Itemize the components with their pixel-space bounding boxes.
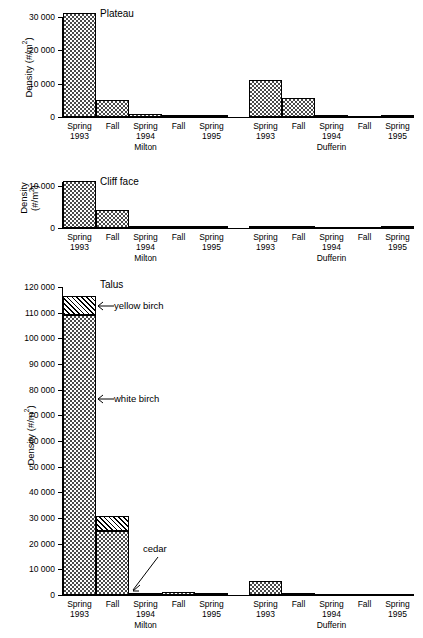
ytick-label: 100 000 [0,334,55,343]
bar-milton-spring1994 [129,226,162,229]
bar-dufferin-spring1995 [381,594,414,596]
bar-milton-spring1993 [63,181,96,228]
ytick-label: 20 000 [0,540,55,549]
group-label-milton: Milton [123,253,168,263]
bar-milton-spring1994 [129,114,162,117]
y-axis-label-plateau: Density (#/m2) [23,18,34,118]
figure-root: { "figure": { "y_axis_label": "Density (… [0,0,423,638]
ytick-label: 10 000 [5,80,55,89]
bar-dufferin-fall1994 [348,594,381,596]
annotation-cedar: cedar [143,543,167,554]
bar-dufferin-fall1993 [282,226,315,229]
bar-dufferin-spring1994 [315,227,348,229]
ytick-label: 0 [5,224,55,233]
bar-milton-fall1994 [162,226,195,229]
group-label-dufferin: Dufferin [309,253,354,263]
bar-dufferin-spring1994 [315,115,348,117]
yellow-birch-arrow-icon [96,301,116,313]
bar-dufferin-fall1993 [282,593,315,595]
bar-milton-spring1993-white-birch [63,315,96,595]
xcat-milton-4: Spring 1995 [189,599,234,619]
bar-dufferin-spring1993 [249,80,282,117]
annotation-white-birch: white birch [114,393,159,404]
xcat-dufferin-4: Spring 1995 [375,599,420,619]
bar-dufferin-spring1995 [381,115,414,117]
y-axis-label-cliff: Density (#/m2) Density(#/m2) [18,170,40,226]
annotation-yellow-birch: yellow birch [114,300,164,311]
bar-dufferin-spring1995 [381,226,414,228]
ytick-label: 10 000 [5,182,55,191]
panel-title-plateau: Plateau [100,8,134,19]
bar-dufferin-fall1993 [282,98,315,117]
group-label-milton: Milton [123,620,168,630]
ytick-label: 50 000 [0,463,55,472]
ytick-label: 30 000 [0,514,55,523]
panel-cliff-face: Density (#/m2) Density(#/m2) Cliff face … [0,165,423,275]
ytick-label: 60 000 [0,437,55,446]
bar-milton-spring1995 [195,593,228,595]
bar-milton-spring1995 [195,115,228,117]
xcat-dufferin-4: Spring 1995 [375,121,420,141]
bar-dufferin-fall1994 [348,116,381,118]
bar-dufferin-fall1994 [348,227,381,229]
ytick-label: 110 000 [0,309,55,318]
bar-milton-spring1993 [63,13,96,117]
white-birch-arrow-icon [96,394,116,406]
bar-milton-fall1994 [162,592,195,595]
bar-dufferin-spring1994 [315,594,348,596]
bar-milton-fall1993 [96,100,129,117]
group-label-dufferin: Dufferin [309,142,354,152]
group-label-milton: Milton [123,142,168,152]
panel-title-cliff: Cliff face [100,176,139,187]
cedar-arrow-icon [128,555,160,595]
bar-dufferin-spring1993 [249,226,282,229]
panel-title-talus: Talus [100,279,123,290]
bar-milton-fall1993-white-birch [96,531,129,595]
ytick-label: 40 000 [0,488,55,497]
ytick-label: 20 000 [5,46,55,55]
bar-milton-fall1993-yellow-birch [96,516,129,532]
ytick-label: 30 000 [5,13,55,22]
bar-milton-spring1993-yellow-birch [63,296,96,315]
ytick-label: 0 [0,591,55,600]
bar-milton-fall1993 [96,210,129,228]
panel-plateau: Density (#/m2) Plateau 30 000 20 000 10 … [0,0,423,165]
ytick-label: 90 000 [0,360,55,369]
xcat-dufferin-4: Spring 1995 [375,232,420,252]
bar-milton-spring1995 [195,226,228,228]
panel-talus: Density (#/m2) Talus 120 000 110 000 100… [0,275,423,638]
ytick-label: 0 [5,113,55,122]
bar-milton-fall1994 [162,115,195,118]
xcat-milton-4: Spring 1995 [189,121,234,141]
group-label-dufferin: Dufferin [309,620,354,630]
xcat-milton-4: Spring 1995 [189,232,234,252]
ytick-label: 80 000 [0,386,55,395]
ytick-label: 120 000 [0,283,55,292]
ytick-label: 70 000 [0,411,55,420]
ytick-label: 10 000 [0,565,55,574]
bar-dufferin-spring1993 [249,581,282,595]
